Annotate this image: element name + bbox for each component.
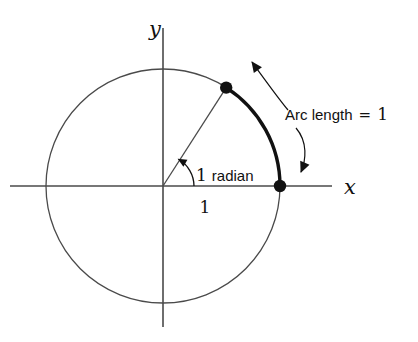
arc-length-label-equals: = <box>359 106 372 124</box>
radius-label: 1 <box>200 197 211 217</box>
arc-length-label-value: 1 <box>377 104 388 124</box>
y-axis-label: y <box>148 17 162 41</box>
arc-leader-lower <box>296 128 305 172</box>
x-axis-label: x <box>344 175 356 199</box>
radian-diagram: y x 1radian 1 Arc length=1 <box>0 0 418 342</box>
figure-container: y x 1radian 1 Arc length=1 <box>0 0 418 342</box>
angle-arc <box>179 159 195 186</box>
arc-length-label-text: Arc length <box>285 106 353 123</box>
arc-leader-upper <box>252 62 288 110</box>
axes-group <box>10 28 332 327</box>
point-terminal <box>220 81 232 93</box>
angle-label-value: 1 <box>196 165 207 185</box>
point-initial <box>274 180 286 192</box>
angle-label-unit: radian <box>212 167 254 184</box>
arc-length-label: Arc length=1 <box>285 104 388 124</box>
angle-label: 1radian <box>196 165 254 185</box>
